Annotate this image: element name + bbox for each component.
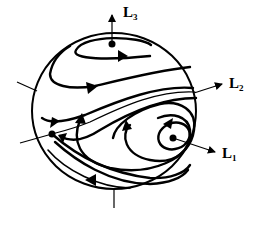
sphere-phase-portrait	[0, 0, 259, 226]
axis-L1	[173, 138, 215, 152]
label-L3-main: L	[123, 4, 133, 20]
label-L1-main: L	[222, 145, 232, 161]
equilibrium-top	[109, 41, 116, 48]
axis-L2	[194, 84, 222, 93]
arrow-upper-band	[86, 82, 98, 94]
equilibrium-left-saddle	[49, 131, 56, 138]
arrow-top	[118, 50, 128, 62]
label-L1: L1	[222, 146, 237, 163]
label-L1-sub: 1	[232, 153, 237, 163]
axis-L2-negative	[17, 82, 37, 91]
label-L2-sub: 2	[239, 83, 244, 93]
label-L2: L2	[229, 76, 244, 93]
label-L3: L3	[123, 5, 138, 22]
direction-arrows	[50, 50, 173, 186]
equilibrium-right	[170, 135, 177, 142]
label-L2-main: L	[229, 75, 239, 91]
label-L3-sub: 3	[133, 12, 138, 22]
